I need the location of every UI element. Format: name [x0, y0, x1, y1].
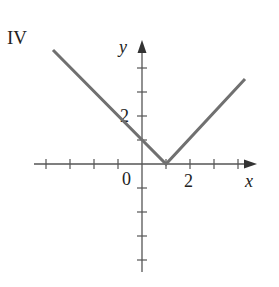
y-axis-arrow-icon [138, 40, 147, 53]
x-axis [34, 159, 257, 169]
x-axis-label: x [244, 171, 253, 191]
x-axis-arrow-icon [244, 160, 257, 169]
panel-label: IV [7, 27, 27, 48]
y-axis [137, 40, 147, 272]
graph-canvas: IV y x 0 2 [0, 0, 279, 287]
y-axis-label: y [117, 37, 127, 57]
x-tick-label-2: 2 [184, 171, 193, 191]
curve-abs-x-minus-1 [53, 50, 245, 164]
x-tick-label-0: 0 [122, 169, 131, 189]
